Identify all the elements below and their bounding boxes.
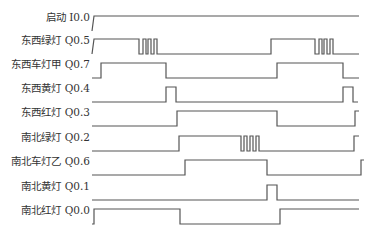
waveform-ew-red-q0-3	[92, 111, 359, 126]
waveform-ns-car-b-q0-6	[92, 160, 364, 175]
waveform-ew-yellow-q0-4	[92, 87, 358, 102]
waveform-ns-red-q0-0	[92, 209, 359, 224]
waveforms	[0, 0, 376, 241]
waveform-ew-green-q0-5	[92, 39, 359, 54]
waveform-ns-green-q0-2	[92, 136, 359, 151]
waveform-ns-yellow-q0-1	[92, 185, 359, 200]
timing-diagram: 启动 I0.0 东西绿灯 Q0.5 东西车灯甲 Q0.7 东西黄灯 Q0.4 东…	[0, 0, 376, 241]
waveform-start-i0-0	[92, 16, 359, 31]
waveform-ew-car-a-q0-7	[92, 63, 359, 78]
